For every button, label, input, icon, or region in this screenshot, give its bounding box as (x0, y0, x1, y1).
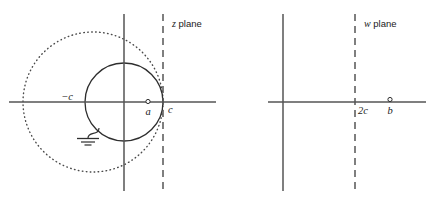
complex-plane-mapping-figure: −c a c z plane 2c b w plane (0, 0, 428, 203)
ground-wire (88, 128, 99, 138)
z-plane-point-a-marker (146, 99, 150, 103)
w-plane-word: plane (371, 18, 397, 29)
label-two-c: 2c (358, 105, 368, 116)
label-minus-c: −c (61, 91, 73, 102)
z-plane-word: plane (176, 18, 202, 29)
z-plane-panel: −c a c z plane (9, 14, 216, 191)
w-plane-panel: 2c b w plane (268, 14, 426, 191)
ground-symbol (77, 128, 99, 145)
w-plane-point-b-marker (388, 97, 392, 101)
label-a: a (145, 106, 150, 117)
figure-container: −c a c z plane 2c b w plane (0, 0, 428, 203)
label-z-plane: z plane (171, 18, 202, 29)
label-b: b (387, 105, 392, 116)
label-w-plane: w plane (364, 18, 397, 29)
label-c: c (168, 104, 173, 115)
